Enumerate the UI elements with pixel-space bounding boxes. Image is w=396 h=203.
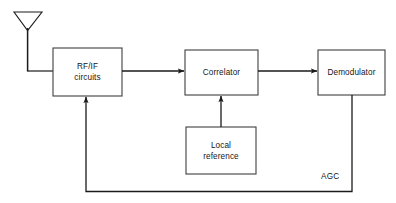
block-correlator: [185, 50, 258, 95]
block-rf-if: [53, 48, 122, 96]
block-demodulator: [318, 50, 385, 95]
block-local-reference: [186, 127, 256, 174]
block-diagram: RF/IF circuits Correlator Demodulator Lo…: [0, 0, 396, 203]
receiving-antenna-icon: [14, 12, 42, 72]
agc-label: AGC: [321, 172, 339, 182]
